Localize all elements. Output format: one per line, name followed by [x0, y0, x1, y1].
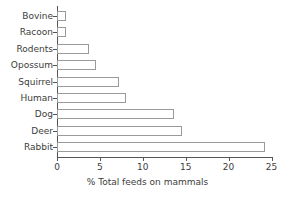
x-axis-tick-label: 20 — [214, 162, 244, 173]
bar-row: Squirrel — [0, 77, 295, 93]
bar-row: Bovine — [0, 11, 295, 27]
bar-category-label: Squirrel — [0, 77, 53, 88]
bar-row: Deer — [0, 126, 295, 142]
bar-rodents — [57, 44, 89, 54]
bar-deer — [57, 126, 182, 136]
bar-chart-figure: Bovine Racoon Rodents Opossum Squirrel H… — [0, 0, 295, 197]
x-axis-tick — [143, 157, 144, 161]
bar-row: Opossum — [0, 60, 295, 76]
bar-squirrel — [57, 77, 119, 87]
bar-category-label: Human — [0, 93, 53, 104]
bar-row: Racoon — [0, 27, 295, 43]
x-axis-title: % Total feeds on mammals — [0, 177, 295, 188]
bar-racoon — [57, 27, 66, 37]
x-axis-tick — [272, 157, 273, 161]
x-axis-tick-label: 5 — [85, 162, 115, 173]
bar-category-label: Rodents — [0, 44, 53, 55]
bar-category-label: Racoon — [0, 27, 53, 38]
bar-human — [57, 93, 126, 103]
bar-category-label: Bovine — [0, 11, 53, 22]
bar-row: Dog — [0, 109, 295, 125]
bar-category-label: Deer — [0, 126, 53, 137]
x-axis-tick-label: 10 — [128, 162, 158, 173]
plot-area: Bovine Racoon Rodents Opossum Squirrel H… — [0, 0, 295, 160]
x-axis-tick — [186, 157, 187, 161]
bar-category-label: Dog — [0, 109, 53, 120]
x-axis-tick-label: 25 — [257, 162, 287, 173]
bar-row: Rodents — [0, 44, 295, 60]
bar-bovine — [57, 11, 66, 21]
x-axis-tick — [100, 157, 101, 161]
x-axis-tick — [229, 157, 230, 161]
bar-dog — [57, 109, 174, 119]
x-axis-tick-label: 0 — [42, 162, 72, 173]
bar-category-label: Rabbit — [0, 142, 53, 153]
bar-category-label: Opossum — [0, 60, 53, 71]
bar-opossum — [57, 60, 96, 70]
bar-rabbit — [57, 142, 265, 152]
x-axis-tick — [57, 157, 58, 161]
bar-row: Rabbit — [0, 142, 295, 158]
bar-row: Human — [0, 93, 295, 109]
x-axis-tick-label: 15 — [171, 162, 201, 173]
